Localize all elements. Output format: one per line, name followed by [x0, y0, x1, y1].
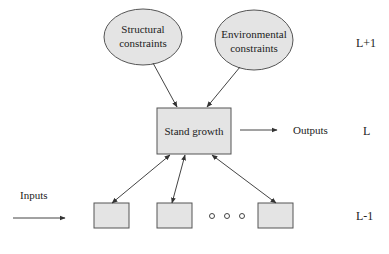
- environmental-to-growth-arrow: [207, 67, 240, 107]
- inputs-label: Inputs: [20, 189, 48, 201]
- growth-box2-bidirectional-arrow: [172, 155, 185, 203]
- stand-growth-label: Stand growth: [165, 125, 224, 137]
- ellipsis-marker: [210, 214, 245, 219]
- structural-line1: Structural: [121, 23, 164, 35]
- outputs-label: Outputs: [293, 124, 328, 136]
- lower-level-box-2: [157, 203, 192, 228]
- level-lower-label: L-1: [356, 209, 373, 223]
- environmental-line2: constraints: [230, 42, 278, 54]
- level-upper-label: L+1: [356, 36, 376, 50]
- structural-line2: constraints: [119, 37, 167, 49]
- stand-growth-node: Stand growth: [157, 108, 231, 154]
- diagram-canvas: Structural constraints Environmental con…: [0, 0, 389, 254]
- structural-constraints-node: Structural constraints: [104, 9, 182, 65]
- growth-box1-bidirectional-arrow: [112, 155, 170, 203]
- structural-to-growth-arrow: [153, 63, 177, 107]
- environmental-line1: Environmental: [221, 28, 286, 40]
- level-middle-label: L: [363, 124, 370, 138]
- growth-boxn-bidirectional-arrow: [212, 155, 276, 203]
- lower-level-box-n: [258, 203, 293, 228]
- lower-level-box-1: [94, 203, 129, 228]
- environmental-constraints-node: Environmental constraints: [215, 10, 293, 70]
